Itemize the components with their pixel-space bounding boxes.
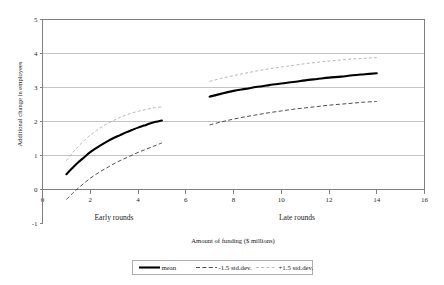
- chart-figure: -1012345 0246810121416 Additional change…: [0, 0, 444, 285]
- x-tick-label: 14: [373, 196, 381, 204]
- x-tick-label: 10: [278, 196, 286, 204]
- x-tick-label: 12: [326, 196, 334, 204]
- x-tick-label: 16: [421, 196, 429, 204]
- y-tick-label: 3: [34, 84, 38, 92]
- y-tick-label: 5: [34, 16, 38, 24]
- x-tick-label: 8: [232, 196, 236, 204]
- legend-label-mean: mean: [162, 264, 177, 271]
- y-tick-label: 0: [34, 186, 38, 194]
- y-axis-title: Additional change in employees: [16, 61, 23, 147]
- x-tick-label: 2: [89, 196, 93, 204]
- y-tick-label: 4: [34, 50, 38, 58]
- x-tick-label: 6: [184, 196, 188, 204]
- annotation-late-rounds: Late rounds: [279, 213, 315, 222]
- legend-label-upper: +1.5 std.dev.: [279, 264, 314, 271]
- x-tick-label: 4: [136, 196, 140, 204]
- y-tick-label: 1: [34, 152, 38, 160]
- y-tick-label: 2: [34, 118, 38, 126]
- y-tick-label: -1: [32, 220, 38, 228]
- annotation-early-rounds: Early rounds: [94, 213, 133, 222]
- legend-label-lower: -1.5 std.dev.: [219, 264, 252, 271]
- x-axis-title: Amount of funding ($ millions): [191, 237, 275, 245]
- chart-legend: mean -1.5 std.dev. +1.5 std.dev.: [133, 261, 314, 275]
- funding-employment-chart: -1012345 0246810121416 Additional change…: [0, 0, 444, 285]
